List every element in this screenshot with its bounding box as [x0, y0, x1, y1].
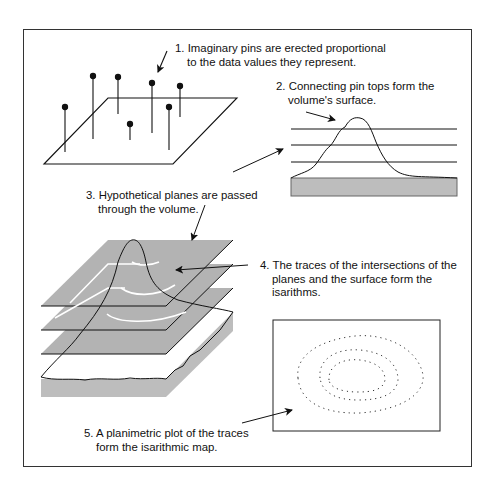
map-frame — [273, 320, 440, 431]
arrow-step-3 — [233, 149, 283, 172]
base-plane — [44, 98, 237, 164]
profile-panel — [233, 112, 457, 196]
arrow-step-1 — [158, 51, 167, 72]
caption-step-2: 2. Connecting pin tops form the volume's… — [276, 80, 434, 107]
caption-step-4: 4. The traces of the intersections of th… — [260, 259, 457, 300]
map-panel — [242, 320, 440, 431]
surface-profile — [291, 118, 457, 178]
stacked-planes-panel — [41, 205, 248, 397]
arrow-step-2 — [306, 112, 335, 120]
caption-step-3: 3. Hypothetical planes are passed throug… — [86, 189, 258, 216]
dotted-isarithms — [298, 336, 423, 413]
caption-step-5: 5. A planimetric plot of the traces form… — [84, 427, 249, 454]
profile-base — [291, 178, 457, 196]
arrow-step-5 — [242, 410, 292, 423]
isarithm-construction-figure: 1. Imaginary pins are erected proportion… — [0, 0, 489, 488]
pins — [62, 73, 182, 152]
caption-step-1: 1. Imaginary pins are erected proportion… — [175, 42, 386, 69]
diagram-graphics — [0, 0, 489, 488]
